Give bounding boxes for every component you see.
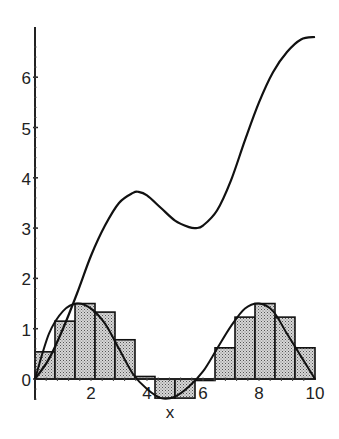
x-tick-label: 8 xyxy=(254,384,263,403)
y-tick-label: 1 xyxy=(22,321,31,340)
y-tick-label: 3 xyxy=(22,220,31,239)
x-tick-label: 2 xyxy=(86,384,95,403)
riemann-rectangle xyxy=(155,379,175,398)
riemann-rectangle xyxy=(215,348,235,379)
riemann-rectangles xyxy=(35,304,315,399)
x-tick-label: 10 xyxy=(306,384,325,403)
x-tick-label: 6 xyxy=(198,384,207,403)
riemann-rectangle xyxy=(235,317,255,379)
y-tick-label: 0 xyxy=(22,371,31,390)
y-tick-label: 2 xyxy=(22,270,31,289)
riemann-rectangle xyxy=(255,304,275,379)
riemann-rectangle xyxy=(275,317,295,379)
y-tick-label: 4 xyxy=(22,170,31,189)
y-tick-label: 5 xyxy=(22,120,31,139)
riemann-rectangle xyxy=(75,304,95,379)
y-tick-label: 6 xyxy=(22,69,31,88)
riemann-rectangle xyxy=(55,321,75,379)
riemann-sum-chart: 0123456 246810 x xyxy=(0,0,339,439)
x-axis-label: x xyxy=(166,403,175,422)
